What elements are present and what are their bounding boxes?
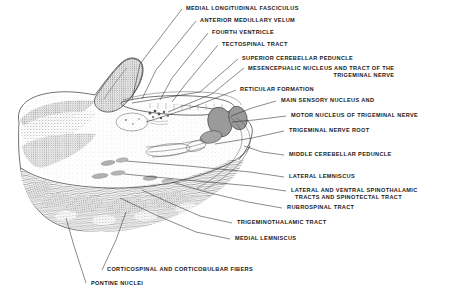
label-tectospinal-tract: TECTOSPINAL TRACT: [222, 41, 288, 49]
label-spinothalamic-tracts-line1: LATERAL AND VENTRAL SPINOTHALAMIC: [291, 187, 418, 193]
label-corticospinal-corticobulbar: CORTICOSPINAL AND CORTICOBULBAR FIBERS: [107, 266, 253, 274]
label-medial-longitudinal-fasciculus: MEDIAL LONGITUDINAL FASCICULUS: [186, 5, 299, 13]
label-reticular-formation: RETICULAR FORMATION: [240, 86, 314, 94]
label-main-sensory-nucleus: MAIN SENSORY NUCLEUS AND: [281, 97, 374, 105]
label-medial-lemniscus: MEDIAL LEMNISCUS: [235, 235, 296, 243]
label-mesencephalic-nucleus-line2: TRIGEMINAL NERVE: [248, 72, 394, 79]
label-rubrospinal-tract: RUBROSPINAL TRACT: [287, 204, 354, 212]
label-spinothalamic-tracts: LATERAL AND VENTRAL SPINOTHALAMIC TRACTS…: [291, 187, 418, 202]
label-motor-nucleus-trigeminal: MOTOR NUCLEUS OF TRIGEMINAL NERVE: [291, 112, 418, 120]
label-anterior-medullary-velum: ANTERIOR MEDULLARY VELUM: [200, 17, 295, 25]
label-trigeminothalamic-tract: TRIGEMINOTHALAMIC TRACT: [237, 219, 326, 227]
label-superior-cerebellar-peduncle: SUPERIOR CEREBELLAR PEDUNCLE: [242, 55, 353, 63]
label-lateral-lemniscus: LATERAL LEMNISCUS: [289, 173, 355, 181]
label-fourth-ventricle: FOURTH VENTRICLE: [212, 29, 274, 37]
label-pontine-nuclei: PONTINE NUCLEI: [91, 280, 143, 288]
label-spinothalamic-tracts-line2: TRACTS AND SPINOTECTAL TRACT: [291, 194, 418, 201]
label-trigeminal-nerve-root: TRIGEMINAL NERVE ROOT: [289, 127, 370, 135]
label-mesencephalic-nucleus: MESENCEPHALIC NUCLEUS AND TRACT OF THE T…: [248, 65, 394, 80]
label-middle-cerebellar-peduncle: MIDDLE CEREBELLAR PEDUNCLE: [289, 151, 392, 159]
label-mesencephalic-nucleus-line1: MESENCEPHALIC NUCLEUS AND TRACT OF THE: [248, 65, 394, 71]
